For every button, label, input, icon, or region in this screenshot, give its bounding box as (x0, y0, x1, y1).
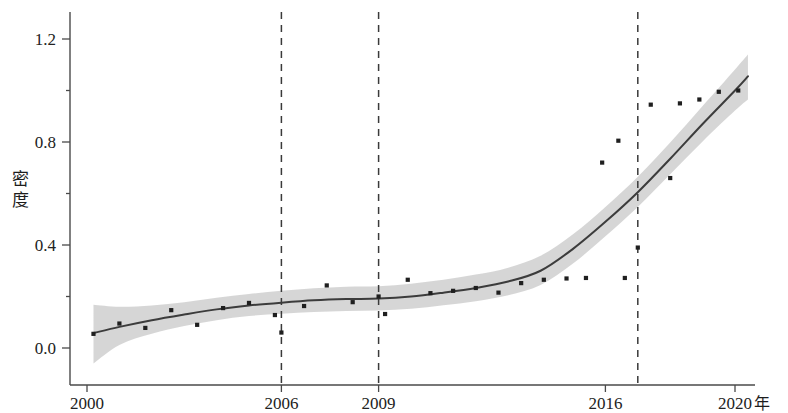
density-scatter-chart: 0.00.40.81.2 20002006200920162020 密度 年 (0, 0, 788, 413)
scatter-point (636, 245, 640, 249)
y-axis-title-char: 密 (12, 170, 29, 189)
scatter-point (247, 301, 251, 305)
scatter-point (649, 103, 653, 107)
scatter-point (668, 176, 672, 180)
scatter-point (736, 88, 740, 92)
x-ticks-group: 20002006200920162020 (70, 385, 752, 413)
scatter-point (564, 276, 568, 280)
scatter-point (428, 291, 432, 295)
scatter-point (474, 286, 478, 290)
confidence-band-group (93, 54, 747, 363)
x-tick-label: 2000 (70, 394, 104, 413)
y-axis-title: 密度 (12, 170, 29, 210)
scatter-point (616, 139, 620, 143)
scatter-point (143, 326, 147, 330)
scatter-point (117, 321, 121, 325)
scatter-point (195, 323, 199, 327)
y-tick-label: 1.2 (35, 30, 56, 49)
y-axis-title-char: 度 (12, 191, 29, 210)
confidence-band (93, 54, 747, 363)
scatter-point (221, 306, 225, 310)
x-tick-label: 2009 (362, 394, 396, 413)
scatter-point (600, 161, 604, 165)
fit-line (93, 76, 747, 333)
scatter-point (717, 90, 721, 94)
scatter-point (351, 300, 355, 304)
scatter-point (678, 101, 682, 105)
fit-line-group (93, 76, 747, 333)
scatter-point (519, 281, 523, 285)
scatter-point (542, 278, 546, 282)
scatter-point (273, 313, 277, 317)
scatter-point (496, 291, 500, 295)
scatter-point (91, 332, 95, 336)
chart-figure: 0.00.40.81.2 20002006200920162020 密度 年 (0, 0, 788, 413)
axes-group (70, 12, 755, 385)
x-axis-unit-label: 年 (754, 395, 770, 412)
scatter-point (383, 312, 387, 316)
scatter-point (302, 304, 306, 308)
scatter-point (325, 283, 329, 287)
x-tick-label: 2016 (588, 394, 622, 413)
scatter-point (406, 278, 410, 282)
scatter-point (697, 97, 701, 101)
scatter-point (584, 276, 588, 280)
y-tick-label: 0.4 (35, 236, 57, 255)
reference-lines-group (281, 12, 637, 385)
y-tick-label: 0.8 (35, 133, 56, 152)
x-tick-label: 2020 (718, 394, 752, 413)
scatter-point (279, 330, 283, 334)
scatter-point (169, 308, 173, 312)
y-tick-label: 0.0 (35, 339, 56, 358)
y-ticks-group: 0.00.40.81.2 (35, 30, 70, 358)
scatter-point (623, 276, 627, 280)
x-tick-label: 2006 (264, 394, 298, 413)
scatter-point (377, 294, 381, 298)
scatter-point (451, 289, 455, 293)
